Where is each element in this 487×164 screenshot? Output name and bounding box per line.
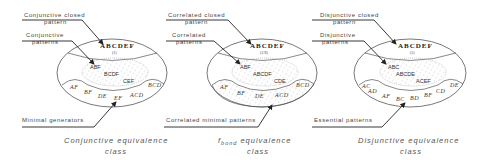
support-value: (1/8) bbox=[260, 50, 268, 55]
pattern-item: ABF bbox=[240, 64, 251, 70]
caption: class bbox=[247, 147, 269, 156]
patterns-label: Conjunctive bbox=[26, 32, 64, 38]
patterns-label: patterns bbox=[32, 39, 58, 45]
closed-pattern: ABCDEF bbox=[100, 42, 135, 50]
minimal-patterns-arrow bbox=[312, 103, 405, 127]
minimal-patterns-label: Essential patterns bbox=[314, 117, 373, 123]
pattern-item: ACEF bbox=[416, 78, 431, 84]
minimal-pattern: BD bbox=[410, 95, 419, 101]
caption: class bbox=[400, 147, 422, 156]
panel-disjunctive: ABCDEF (5) ABC ABCDE ACEF AC AD AF BC BD… bbox=[312, 12, 466, 156]
minimal-pattern: BF bbox=[237, 90, 245, 96]
pattern-item: CEF bbox=[123, 78, 135, 84]
support-value: (1) bbox=[112, 50, 117, 55]
minimal-pattern: AF bbox=[381, 93, 390, 99]
caption: fbond equivalence bbox=[218, 136, 291, 146]
pattern-item: ABF bbox=[90, 64, 101, 70]
caption: class bbox=[105, 147, 127, 156]
closed-pattern: ABCDEF bbox=[398, 42, 433, 50]
pattern-item: ABCDE bbox=[396, 71, 415, 77]
minimal-pattern: ACD bbox=[274, 92, 289, 98]
panel-fbond: ABCDEF (1/8) ABF ABCDF CDE AF BF DE ACD … bbox=[164, 12, 317, 156]
minimal-patterns-label: Minimal generators bbox=[22, 117, 84, 123]
minimal-pattern: DE bbox=[97, 93, 107, 99]
minimal-pattern: DE bbox=[449, 82, 459, 88]
minimal-pattern: CD bbox=[436, 88, 446, 94]
closed-pattern-label: Disjunctive closed bbox=[320, 12, 379, 18]
closed-pattern: ABCDEF bbox=[250, 42, 285, 50]
minimal-pattern: BC bbox=[396, 96, 405, 102]
minimal-pattern: DE bbox=[254, 93, 264, 99]
patterns-label: patterns bbox=[176, 39, 202, 45]
pattern-item: BCDF bbox=[104, 71, 120, 77]
patterns-label: Disjunctive bbox=[320, 32, 356, 38]
minimal-pattern: BCD bbox=[148, 82, 162, 88]
minimal-pattern: ACD bbox=[129, 92, 144, 98]
patterns-label: patterns bbox=[322, 39, 348, 45]
pattern-item: ABC bbox=[388, 64, 399, 70]
minimal-pattern: AF bbox=[69, 84, 78, 90]
minimal-pattern: BCD bbox=[296, 82, 310, 88]
minimal-patterns-arrow bbox=[22, 102, 116, 127]
caption-subscript: bond bbox=[221, 140, 237, 146]
panel-conjunctive: ABCDEF (1) ABF BCDF CEF AF BF DE EF ACD … bbox=[22, 12, 168, 156]
caption: Disjunctive equivalence bbox=[358, 136, 459, 145]
minimal-patterns-label: Correlated minimal patterns bbox=[166, 117, 256, 123]
minimal-pattern: BF bbox=[84, 89, 92, 95]
closed-pattern-label: Conjunctive closed bbox=[24, 12, 85, 18]
caption: Conjunctive equivalence bbox=[64, 136, 168, 145]
minimal-patterns-arrow bbox=[164, 105, 272, 127]
support-value: (5) bbox=[410, 50, 415, 55]
caption-text: equivalence bbox=[237, 136, 291, 145]
minimal-pattern: AF bbox=[219, 84, 228, 90]
closed-pattern-label: Correlated closed bbox=[168, 12, 225, 18]
pattern-item: CDE bbox=[274, 78, 286, 84]
patterns-label: Correlated bbox=[172, 32, 206, 38]
minimal-pattern: EF bbox=[113, 95, 122, 101]
equivalence-classes-diagram: ABCDEF (1) ABF BCDF CEF AF BF DE EF ACD … bbox=[0, 0, 487, 164]
pattern-item: ABCDF bbox=[253, 71, 272, 77]
minimal-pattern: BF bbox=[424, 92, 432, 98]
minimal-pattern: AD bbox=[367, 88, 377, 94]
